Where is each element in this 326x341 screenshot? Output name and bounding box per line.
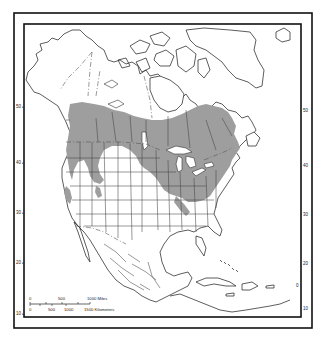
cuba [196,278,236,286]
jamaica [226,293,234,296]
puerto-rico [266,285,274,288]
map-content [26,28,290,312]
scale-km-1500: 1500 Kilometers [84,307,114,312]
lat-label-right-20: 20 [303,261,309,266]
scale-bar: 0 500 1000 Miles 0 500 1000 1500 Kilomet… [29,296,114,312]
lat-label-left-20: 20 [16,260,22,265]
scale-km-0: 0 [29,307,32,312]
latitude-labels-right: 50 40 30 20 0 10 [296,108,309,311]
central-america [170,294,290,312]
lat-label-right-10: 10 [303,306,309,311]
scale-mi-1000: 1000 Miles [87,296,107,301]
lat-label-left-40: 40 [16,160,22,165]
bahamas [220,260,238,272]
lat-label-right-30: 30 [303,212,309,217]
greenland [186,28,264,88]
hispaniola [242,282,258,290]
florida [196,236,206,256]
lat-label-left-30: 30 [16,210,22,215]
lat-label-left-10: 10 [16,311,22,316]
range-map: 50 40 30 20 10 50 40 30 20 0 10 0 500 10… [0,0,326,341]
lat-label-right-40: 40 [303,163,309,168]
lat-label-left-50: 50 [16,104,22,109]
scale-mi-500: 500 [58,296,66,301]
iceland [276,28,290,42]
scale-mi-0: 0 [29,296,32,301]
lat-label-right-50: 50 [303,108,309,113]
scale-km-500: 500 [48,307,56,312]
lat-label-right-0: 0 [296,283,299,288]
scale-km-1000: 1000 [64,307,74,312]
